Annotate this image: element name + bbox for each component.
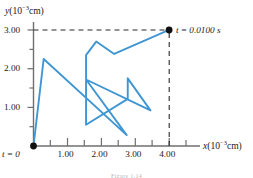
particle-path <box>34 30 170 146</box>
x-axis-title: x(10−3cm) <box>203 140 242 151</box>
end-point-label: t = 0.0100 s <box>176 26 220 35</box>
figure-caption: Figure 1.14 <box>111 173 142 178</box>
x-axis-ticks <box>50 138 186 146</box>
end-point-marker <box>166 27 173 34</box>
x-tick-label-4: 4.00 <box>159 150 175 159</box>
x-tick-label-2: 2.00 <box>91 150 107 159</box>
y-tick-label-3: 3.00 <box>4 26 20 35</box>
start-point-marker <box>30 143 37 150</box>
y-tick-label-2: 2.00 <box>4 64 20 73</box>
start-point-label: t = 0 <box>2 150 20 159</box>
x-tick-label-3: 3.00 <box>125 150 141 159</box>
y-axis-ticks <box>28 30 34 127</box>
y-axis-title: y(10−3cm) <box>5 5 44 16</box>
x-tick-label-1: 1.00 <box>58 150 74 159</box>
axes <box>34 22 201 146</box>
dashed-guides <box>34 30 170 146</box>
y-tick-label-1: 1.00 <box>4 103 20 112</box>
